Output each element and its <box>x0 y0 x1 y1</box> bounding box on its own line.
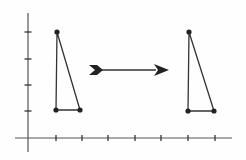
triangle-outline <box>188 32 214 111</box>
arrow-fletching <box>89 65 103 75</box>
vertex-dot <box>185 108 190 113</box>
vertex-dot <box>211 108 216 113</box>
arrow-head <box>154 64 169 76</box>
triangle-outline <box>56 32 80 110</box>
vertex-dot <box>186 29 191 34</box>
coordinate-axes <box>15 13 232 152</box>
original-triangle <box>53 29 82 112</box>
translation-arrow-icon <box>89 64 169 76</box>
translated-triangle <box>185 29 216 113</box>
vertex-dot <box>77 107 82 112</box>
translation-diagram <box>0 0 246 160</box>
vertex-dot <box>54 29 59 34</box>
vertex-dot <box>53 107 58 112</box>
diagram-canvas <box>0 0 246 160</box>
